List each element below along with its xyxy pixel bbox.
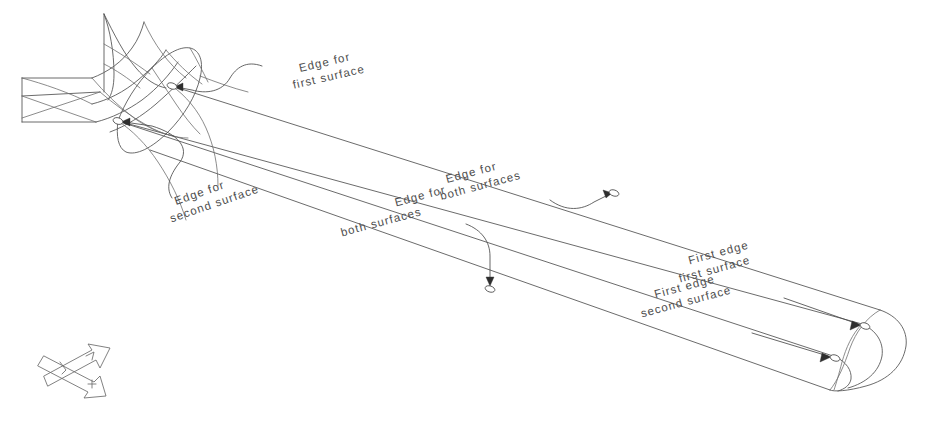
orientation-axes-icon bbox=[38, 344, 110, 398]
node-first-edge-first-surface bbox=[859, 321, 870, 330]
arrowhead-edge-both-surfaces-lower bbox=[486, 277, 494, 286]
annotation-edge-both-surfaces-lower-line1: Edge for bbox=[393, 183, 447, 208]
node-edge-both-surfaces-lower bbox=[484, 285, 495, 294]
tail-nozzle-section bbox=[22, 78, 100, 122]
leader-first-edge-first-surface bbox=[784, 298, 858, 324]
annotation-edge-both-surfaces-lower-line2: both surfaces bbox=[339, 205, 423, 238]
node-first-edge-second-surface bbox=[829, 354, 840, 363]
leader-first-edge-second-surface bbox=[752, 333, 828, 356]
surface-sweep-curves bbox=[118, 22, 248, 220]
drawing-canvas: Edge for first surface Edge for second s… bbox=[0, 0, 927, 427]
leader-edge-both-surfaces-lower bbox=[466, 224, 490, 282]
node-edge-both-surfaces-upper bbox=[608, 189, 619, 198]
leader-edge-both-surfaces-upper bbox=[550, 194, 610, 209]
node-edge-first-surface bbox=[166, 82, 177, 91]
lower-fins bbox=[92, 22, 196, 138]
annotation-labels: Edge for first surface Edge for second s… bbox=[163, 48, 754, 320]
body-outline bbox=[118, 86, 880, 390]
arrowhead-first-edge-first-surface bbox=[850, 321, 861, 330]
leader-edge-first-surface bbox=[176, 64, 262, 92]
technical-drawing: Edge for first surface Edge for second s… bbox=[0, 0, 927, 427]
body-collar-ring bbox=[117, 48, 208, 153]
leader-group bbox=[112, 64, 870, 362]
node-edge-second-surface bbox=[112, 116, 123, 125]
right-end-cap bbox=[830, 310, 906, 391]
leader-edge-second-surface bbox=[124, 122, 184, 198]
